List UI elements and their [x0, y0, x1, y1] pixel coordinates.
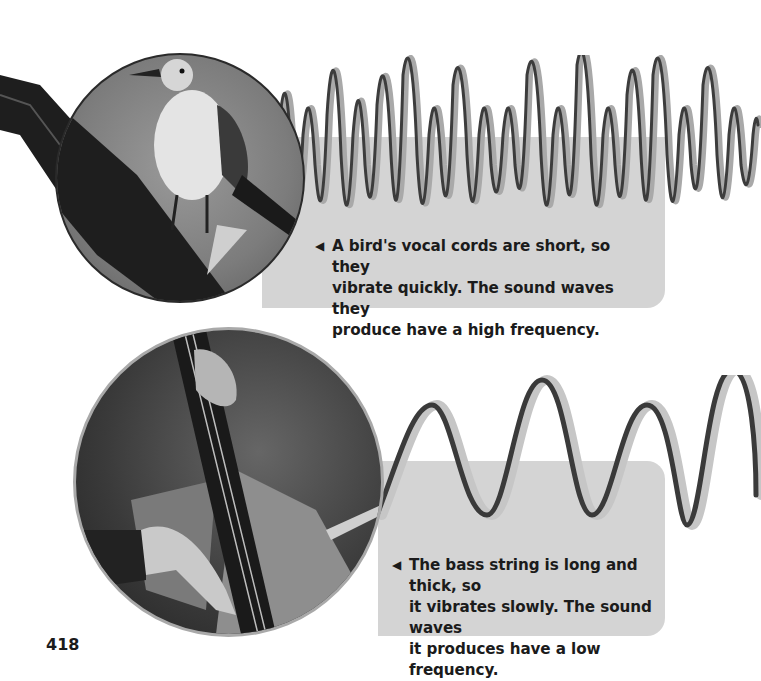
bass-caption-line-1: The bass string is long and thick, so	[409, 555, 659, 597]
bird-caption: ◀ A bird's vocal cords are short, so the…	[332, 236, 652, 341]
bird-illustration	[57, 55, 303, 301]
bass-caption: ◀ The bass string is long and thick, so …	[409, 555, 659, 681]
bird-caption-line-3: produce have a high frequency.	[332, 320, 652, 341]
bird-caption-line-2: vibrate quickly. The sound waves they	[332, 278, 652, 320]
bass-illustration	[76, 330, 381, 634]
pointer-left-icon: ◀	[315, 236, 324, 257]
bass-caption-line-3: it produces have a low frequency.	[409, 639, 659, 681]
pointer-left-icon: ◀	[392, 555, 401, 576]
bass-player-photo	[73, 327, 384, 637]
page-number: 418	[46, 635, 79, 654]
high-frequency-wave	[280, 55, 761, 230]
bird-caption-line-1: A bird's vocal cords are short, so they	[332, 236, 652, 278]
bass-caption-line-2: it vibrates slowly. The sound waves	[409, 597, 659, 639]
bird-photo	[55, 53, 305, 303]
low-frequency-wave	[372, 375, 761, 545]
